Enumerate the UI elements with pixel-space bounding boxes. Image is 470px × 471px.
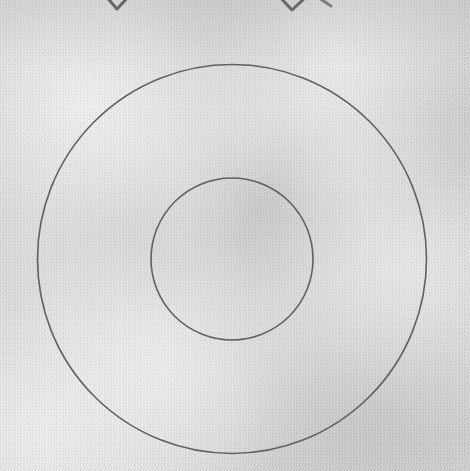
mark-right-vee bbox=[277, 0, 307, 10]
outer-circle bbox=[38, 65, 427, 454]
top-edge-cropped-marks bbox=[0, 0, 470, 16]
mark-right-tick bbox=[316, 0, 331, 6]
inner-circle bbox=[151, 178, 313, 340]
concentric-circles-figure bbox=[0, 0, 470, 471]
mark-left-vee bbox=[104, 0, 130, 9]
image-canvas: Concentric circles inscribed on a mottle… bbox=[0, 0, 470, 471]
